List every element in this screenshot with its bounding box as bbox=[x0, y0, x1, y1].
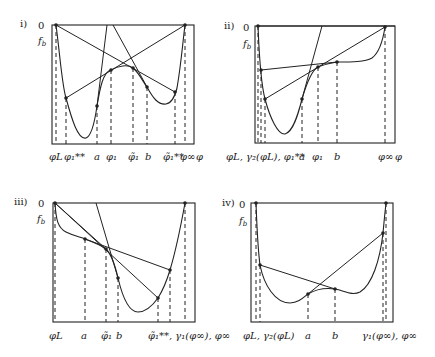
panel-i: i) 0 fb φL φ₁** a φ₁ φ bbox=[20, 18, 203, 162]
panel-label: iv) bbox=[222, 197, 235, 208]
svg-text:a: a bbox=[94, 151, 100, 162]
svg-text:a: a bbox=[81, 330, 87, 341]
y-axis-label: fb bbox=[242, 38, 252, 51]
svg-text:b: b bbox=[334, 151, 340, 162]
y-zero-tick: 0 bbox=[38, 20, 44, 31]
svg-text:φL, γ₂(φL): φL, γ₂(φL) bbox=[243, 330, 295, 341]
svg-text:φ∞: φ∞ bbox=[378, 151, 393, 162]
svg-text:a: a bbox=[299, 151, 305, 162]
free-energy-curve bbox=[55, 203, 185, 312]
svg-text:b: b bbox=[116, 330, 122, 341]
svg-text:b: b bbox=[332, 330, 338, 341]
svg-text:φL: φL bbox=[49, 151, 63, 162]
plot-frame bbox=[255, 26, 395, 143]
svg-text:φ: φ bbox=[395, 151, 402, 162]
svg-text:φ̃₁: φ̃₁ bbox=[101, 330, 112, 341]
figure-canvas: i) 0 fb φL φ₁** a φ₁ φ bbox=[0, 0, 435, 357]
svg-text:a: a bbox=[305, 330, 311, 341]
panel-label: ii) bbox=[224, 20, 234, 31]
y-axis-label: fb bbox=[238, 215, 248, 228]
y-zero-tick: 0 bbox=[239, 199, 245, 210]
svg-text:φ₁**: φ₁** bbox=[64, 151, 85, 162]
panel-iv: iv) 0 fb φL, γ₂(φL) a b γ₁(φ∞), φ∞ bbox=[222, 197, 417, 341]
svg-text:φL: φL bbox=[49, 330, 63, 341]
free-energy-curve bbox=[258, 26, 385, 134]
x-axis-labels: φL, γ₂(φL), φ₁** a φ₁ b φ∞ φ bbox=[226, 151, 402, 162]
plot-frame bbox=[251, 203, 393, 322]
y-axis-label: fb bbox=[37, 35, 47, 48]
panel-label: iii) bbox=[14, 196, 28, 207]
free-energy-curve bbox=[56, 25, 185, 138]
x-axis-labels: φL a φ̃₁ b φ̃₁**, γ₁(φ∞), φ∞ bbox=[49, 330, 230, 341]
svg-text:φ: φ bbox=[196, 151, 203, 162]
svg-text:φ₁: φ₁ bbox=[312, 151, 323, 162]
panel-label: i) bbox=[20, 18, 27, 29]
panel-ii: ii) 0 fb φL, γ₂(φL), φ₁** a φ₁ b φ∞ φ bbox=[224, 20, 402, 162]
free-energy-curve bbox=[256, 203, 386, 303]
y-axis-label: fb bbox=[36, 213, 46, 226]
svg-text:φ̃₁**, γ₁(φ∞), φ∞: φ̃₁**, γ₁(φ∞), φ∞ bbox=[148, 330, 230, 341]
svg-text:φL, γ₂(φL), φ₁**: φL, γ₂(φL), φ₁** bbox=[226, 151, 305, 162]
svg-text:b: b bbox=[145, 151, 151, 162]
svg-text:φ̃₁: φ̃₁ bbox=[128, 151, 139, 162]
y-zero-tick: 0 bbox=[243, 22, 249, 33]
svg-text:γ₁(φ∞), φ∞: γ₁(φ∞), φ∞ bbox=[362, 330, 417, 341]
svg-text:φ∞: φ∞ bbox=[180, 151, 195, 162]
x-axis-labels: φL, γ₂(φL) a b γ₁(φ∞), φ∞ bbox=[243, 330, 417, 341]
svg-text:φ₁: φ₁ bbox=[106, 151, 117, 162]
panel-iii: iii) 0 fb φL a φ̃₁ b φ̃₁**, γ₁(φ∞), φ∞ bbox=[14, 196, 230, 341]
y-zero-tick: 0 bbox=[38, 198, 44, 209]
x-axis-labels: φL φ₁** a φ₁ φ̃₁ b φ̃₁** φ∞ φ bbox=[49, 151, 203, 162]
